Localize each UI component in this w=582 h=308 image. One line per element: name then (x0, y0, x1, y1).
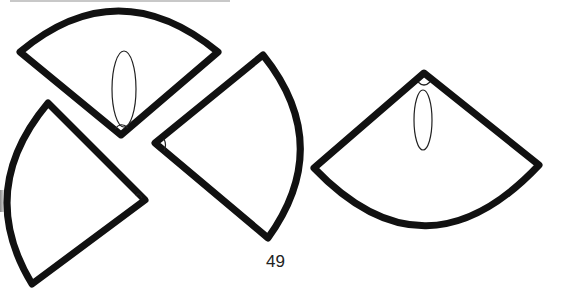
right-sector-shape (314, 73, 539, 226)
page-number: 49 (266, 252, 285, 272)
cone-templates-figure (0, 0, 582, 308)
